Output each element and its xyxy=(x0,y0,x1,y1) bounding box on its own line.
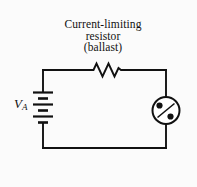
voltage-source-label: VA xyxy=(14,97,27,114)
resistor-zigzag-icon xyxy=(90,64,125,77)
lamp-electrode-lower-icon xyxy=(167,113,173,119)
discharge-lamp-icon xyxy=(153,97,180,124)
lamp-electrode-upper-icon xyxy=(156,102,162,108)
circuit-schematic xyxy=(0,0,197,187)
battery-symbol-icon xyxy=(33,93,53,123)
voltage-source-label-subscript: A xyxy=(22,102,28,112)
voltage-source-label-main: V xyxy=(14,96,22,111)
circuit-diagram-figure: Current-limiting resistor (ballast) xyxy=(0,0,197,187)
